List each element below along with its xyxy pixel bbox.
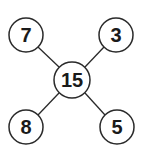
connector-top-left [38, 47, 59, 67]
connector-bottom-right [85, 93, 105, 115]
node-label: 8 [20, 116, 31, 138]
node-top-left: 7 [9, 18, 43, 52]
node-bottom-right: 5 [100, 110, 134, 144]
center-label: 15 [61, 69, 83, 91]
connector-bottom-left [38, 93, 59, 115]
node-top-right: 3 [99, 18, 133, 52]
node-label: 3 [110, 24, 121, 46]
connector-top-right [85, 47, 104, 67]
node-bottom-left: 8 [9, 110, 43, 144]
node-center: 15 [54, 62, 90, 98]
number-diagram: 7 3 15 8 5 [0, 0, 142, 155]
node-label: 7 [20, 24, 31, 46]
node-label: 5 [111, 116, 122, 138]
diagram-canvas: 7 3 15 8 5 [0, 0, 142, 155]
